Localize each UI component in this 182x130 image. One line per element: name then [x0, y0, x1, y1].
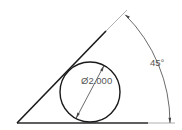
diameter-arrow-top	[100, 66, 104, 72]
angle-arrow-bottom	[168, 118, 171, 123]
cad-drawing: Ø2.000 45°	[0, 0, 182, 130]
inclined-extension-line	[106, 10, 127, 31]
diameter-arrow-bottom	[76, 113, 80, 119]
angle-label[interactable]: 45°	[150, 57, 165, 68]
diameter-label[interactable]: Ø2.000	[81, 75, 112, 86]
angle-arrow-top	[125, 15, 130, 19]
diameter-dimension-line	[76, 66, 104, 119]
angle-dimension-arc	[125, 15, 170, 123]
